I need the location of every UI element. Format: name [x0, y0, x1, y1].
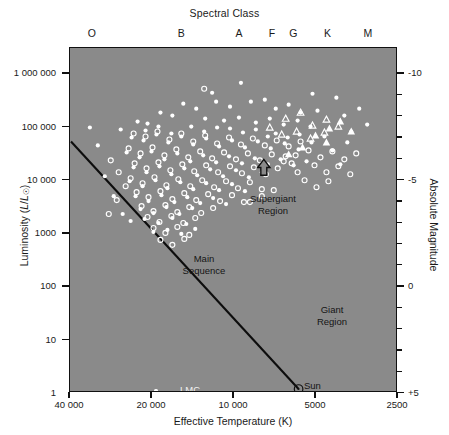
- magnitude-tick-mark: [397, 371, 402, 372]
- magnitude-tick-mark: [397, 136, 402, 137]
- legend-item-lmc: LMC: [154, 384, 220, 392]
- annotation-line: Region: [250, 205, 296, 217]
- luminosity-tick-mark-1: [62, 126, 69, 127]
- temperature-tick-0: 40 000: [54, 399, 83, 410]
- annotation-main-sequence: MainSequence: [183, 253, 226, 276]
- temperature-tick-mark-2: [232, 392, 233, 398]
- magnitude-tick-mark: [397, 285, 404, 286]
- temperature-tick-1: 20 000: [136, 399, 165, 410]
- luminosity-tick-mark-5: [62, 339, 69, 340]
- luminosity-tick-4: 100: [0, 280, 56, 291]
- temperature-tick-mark-1: [150, 392, 151, 398]
- cepheid-open-data-points: [266, 109, 341, 141]
- sun-label: Sun: [304, 380, 321, 391]
- magnitude-tick-1: -5: [408, 173, 416, 184]
- temperature-tick-mark-4: [396, 392, 397, 398]
- magnitude-tick-mark: [397, 158, 402, 159]
- magnitude-tick-mark: [397, 115, 402, 116]
- magnitude-tick-mark: [397, 94, 402, 95]
- spectral-class-label-F: F: [269, 27, 275, 39]
- annotation-line: Sequence: [183, 265, 226, 277]
- chart-legend: LMC SMC Cepheids: [154, 384, 220, 392]
- spectral-class-label-O: O: [88, 27, 96, 39]
- magnitude-tick-mark: [397, 349, 402, 350]
- annotation-line: Supergiant: [250, 193, 296, 205]
- magnitude-tick-mark: [397, 200, 402, 201]
- plot-canvas: [70, 48, 396, 391]
- magnitude-tick-0: -10: [408, 67, 422, 78]
- spectral-class-axis-title: Spectral Class: [0, 7, 449, 19]
- annotation-supergiant-region: SupergiantRegion: [250, 193, 296, 216]
- luminosity-tick-mark-2: [62, 179, 69, 180]
- lmc-data-points: [88, 81, 369, 236]
- temperature-tick-2: 10 000: [218, 399, 247, 410]
- luminosity-tick-5: 10: [0, 333, 56, 344]
- luminosity-tick-mark-4: [62, 285, 69, 286]
- luminosity-tick-3: 1000: [0, 227, 56, 238]
- spectral-class-label-B: B: [178, 27, 185, 39]
- legend-label-lmc: LMC: [180, 384, 200, 392]
- magnitude-tick-mark: [397, 328, 402, 329]
- spectral-class-label-K: K: [324, 27, 331, 39]
- spectral-class-label-A: A: [236, 27, 243, 39]
- magnitude-tick-mark: [397, 307, 402, 308]
- spectral-class-label-G: G: [289, 27, 297, 39]
- magnitude-tick-2: 0: [408, 280, 413, 291]
- temperature-axis-title: Effective Temperature (K): [69, 415, 397, 427]
- luminosity-tick-mark-3: [62, 232, 69, 233]
- cepheid-filled-data-points: [285, 118, 355, 158]
- magnitude-tick-mark: [397, 179, 404, 180]
- absolute-magnitude-axis-title: Absolute Magnitude: [428, 150, 440, 300]
- magnitude-tick-mark: [397, 264, 402, 265]
- magnitude-tick-3: +5: [408, 387, 419, 398]
- annotation-line: Main: [183, 253, 226, 265]
- smc-data-points: [106, 86, 358, 247]
- luminosity-tick-2: 10 000: [0, 173, 56, 184]
- temperature-tick-mark-0: [68, 392, 69, 398]
- temperature-tick-mark-3: [314, 392, 315, 398]
- luminosity-tick-6: 1: [0, 387, 56, 398]
- annotation-line: Region: [317, 316, 347, 328]
- hr-diagram-figure: Spectral Class OBAFGKM Luminosity (L/L☉)…: [0, 0, 449, 435]
- magnitude-tick-mark: [397, 243, 402, 244]
- luminosity-tick-mark-0: [62, 72, 69, 73]
- luminosity-tick-0: 1 000 000: [0, 67, 56, 78]
- magnitude-tick-mark: [397, 392, 404, 393]
- temperature-tick-3: 5000: [304, 399, 325, 410]
- luminosity-tick-1: 100 000: [0, 120, 56, 131]
- magnitude-tick-mark: [397, 222, 402, 223]
- plot-area: SupergiantRegionMainSequenceGiantRegion …: [69, 47, 397, 392]
- spectral-class-label-M: M: [363, 27, 372, 39]
- temperature-tick-4: 2500: [386, 399, 407, 410]
- annotation-line: Giant: [317, 304, 347, 316]
- legend-key-filled-circle-icon: [154, 389, 180, 393]
- magnitude-tick-mark: [397, 72, 404, 73]
- annotation-giant-region: GiantRegion: [317, 304, 347, 327]
